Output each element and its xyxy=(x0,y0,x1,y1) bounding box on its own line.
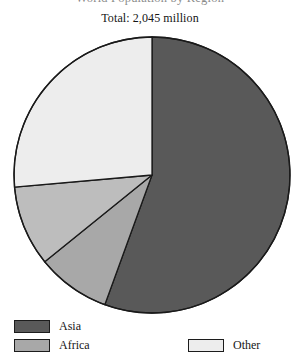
legend-item-asia[interactable]: Asia xyxy=(14,317,90,335)
legend-label-asia: Asia xyxy=(59,320,81,333)
pie-slice-other[interactable] xyxy=(14,37,152,187)
pie-chart xyxy=(0,0,300,318)
legend-swatch-asia xyxy=(14,320,50,333)
legend-swatch-other xyxy=(188,339,224,352)
legend-column-right: Other xyxy=(188,317,260,355)
legend-swatch-africa xyxy=(14,339,50,352)
pie-slice-group xyxy=(14,37,290,313)
pie-chart-svg xyxy=(0,0,300,318)
legend-item-other[interactable]: Other xyxy=(188,336,260,354)
chart-legend: Asia Africa Other xyxy=(0,317,300,355)
legend-label-other: Other xyxy=(233,339,260,352)
legend-column-left: Asia Africa xyxy=(14,317,90,355)
legend-label-africa: Africa xyxy=(59,339,90,352)
legend-item-africa[interactable]: Africa xyxy=(14,336,90,354)
